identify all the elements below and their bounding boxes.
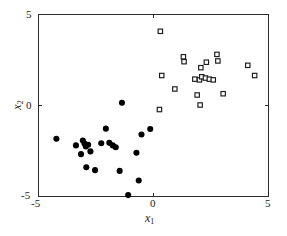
ytick-label-min: -5 [21, 190, 30, 201]
data-point-square [181, 55, 185, 59]
y-axis-label-base: x [10, 104, 24, 109]
data-point-square [204, 60, 208, 64]
data-point-circle [125, 192, 131, 198]
axes-frame [39, 15, 269, 197]
xtick-label-min: -5 [31, 198, 40, 209]
data-point-square [157, 107, 161, 111]
data-point-square [246, 63, 250, 67]
data-point-square [221, 92, 225, 96]
data-point-square [252, 73, 256, 77]
data-point-circle [83, 164, 89, 170]
y-axis-label-sub: 2 [16, 100, 25, 104]
data-point-circle [103, 126, 109, 132]
data-point-circle [98, 140, 104, 146]
plot-canvas [0, 0, 287, 236]
data-point-circle [136, 177, 142, 183]
data-point-circle [117, 168, 123, 174]
axis-ticks [39, 15, 269, 197]
data-point-circle [92, 167, 98, 173]
data-point-square [216, 59, 220, 63]
ytick-label-mid: 0 [26, 100, 32, 111]
data-point-circle [87, 148, 93, 154]
data-point-square [182, 59, 186, 63]
x-axis-label-sub: 1 [150, 217, 154, 226]
data-point-circle [119, 100, 125, 106]
y-axis-label-wrapper: x2 [7, 85, 25, 125]
data-point-circle [78, 151, 84, 157]
data-point-circle [133, 150, 139, 156]
data-point-circle [85, 142, 91, 148]
data-point-circle [147, 126, 153, 132]
ytick-label-max: 5 [26, 9, 32, 20]
scatter-plot-figure: -5 0 5 5 0 -5 x1 x2 [0, 0, 287, 236]
data-point-square [193, 77, 197, 81]
data-point-square [158, 29, 162, 33]
data-point-square [199, 65, 203, 69]
xtick-label-max: 5 [265, 198, 271, 209]
xtick-label-mid: 0 [150, 198, 156, 209]
series-filled-circles [53, 100, 153, 198]
series-open-squares [157, 29, 257, 112]
data-point-circle [73, 142, 79, 148]
data-point-circle [113, 144, 119, 150]
data-point-square [195, 93, 199, 97]
data-point-square [198, 103, 202, 107]
axes-border [39, 15, 269, 197]
x-axis-label: x1 [145, 212, 154, 224]
data-point-square [215, 52, 219, 56]
data-point-square [211, 78, 215, 82]
y-axis-label: x2 [11, 100, 23, 109]
data-point-square [173, 87, 177, 91]
data-point-circle [138, 131, 144, 137]
data-point-circle [53, 136, 59, 142]
data-point-square [160, 73, 164, 77]
